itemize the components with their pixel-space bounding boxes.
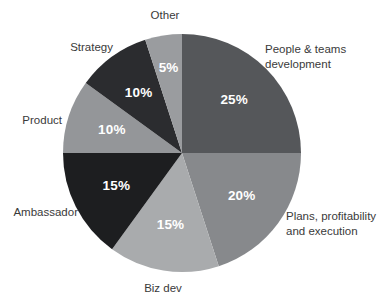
pie-slice-value-ambassador: 15%: [102, 178, 130, 193]
category-label-strategy: Strategy: [0, 40, 113, 55]
category-label-biz-dev: Biz dev: [108, 281, 218, 296]
pie-slice-value-product: 10%: [98, 122, 126, 137]
pie-slice-value-other: 5%: [159, 60, 179, 75]
category-label-line1: Plans, profitability: [286, 210, 376, 222]
category-label-line2: development: [265, 57, 390, 72]
category-label-ambassador: Ambassador: [0, 205, 78, 220]
category-label-line1: Product: [22, 114, 62, 126]
pie-slice-value-plans-profitability-and-execution: 20%: [228, 188, 256, 203]
category-label-people-teams-development: People & teams development: [265, 42, 390, 71]
pie-slice-value-people-teams-development: 25%: [220, 92, 248, 107]
pie-slice-value-strategy: 10%: [125, 85, 153, 100]
category-label-line1: People & teams: [265, 43, 346, 55]
pie-chart: 25%20%15%15%10%10%5% People & teams deve…: [0, 0, 392, 308]
category-label-product: Product: [0, 113, 62, 128]
category-label-line1: Strategy: [70, 41, 113, 53]
pie-slice-value-biz-dev: 15%: [157, 217, 185, 232]
category-label-line2: and execution: [286, 224, 392, 239]
category-label-line1: Other: [151, 9, 180, 21]
category-label-other: Other: [125, 8, 205, 23]
category-label-line1: Biz dev: [144, 282, 182, 294]
category-label-line1: Ambassador: [13, 206, 78, 218]
category-label-plans-profitability-and-execution: Plans, profitability and execution: [286, 209, 392, 238]
